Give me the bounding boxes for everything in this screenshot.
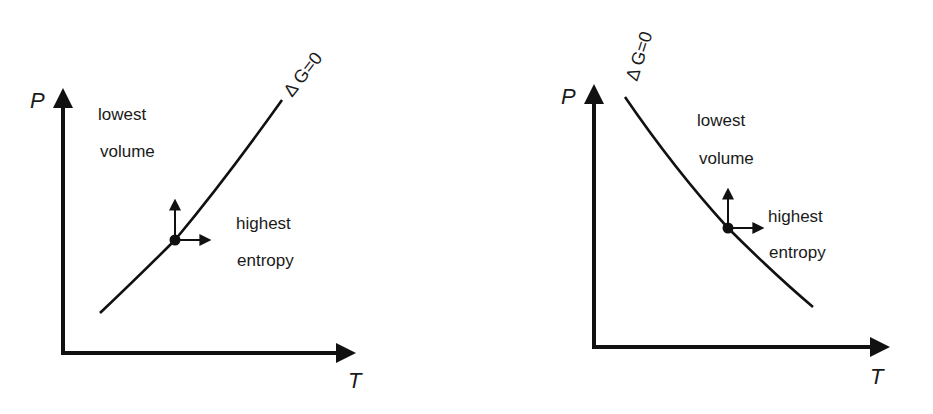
- right-y-axis-label: P: [561, 84, 576, 109]
- right-diagram: P T Δ G=0 lowest volume highest entropy: [561, 29, 886, 389]
- right-region-lower-line2: entropy: [769, 243, 826, 262]
- phase-diagrams: P T Δ G=0 lowest volume highest entropy …: [0, 0, 933, 414]
- left-region-upper-line1: lowest: [98, 105, 146, 124]
- right-x-axis-label: T: [870, 364, 885, 389]
- right-region-lower-line1: highest: [768, 207, 823, 226]
- left-state-point: [170, 235, 181, 246]
- right-curve-label: Δ G=0: [622, 29, 657, 83]
- left-diagram: P T Δ G=0 lowest volume highest entropy: [30, 48, 363, 393]
- right-region-upper-line2: volume: [699, 149, 754, 168]
- left-region-upper-line2: volume: [100, 142, 155, 161]
- left-curve-label: Δ G=0: [279, 48, 326, 100]
- left-x-axis-label: T: [348, 368, 363, 393]
- right-region-upper-line1: lowest: [697, 111, 745, 130]
- left-region-lower-line2: entropy: [237, 251, 294, 270]
- right-state-point: [723, 223, 734, 234]
- left-y-axis-label: P: [30, 88, 45, 113]
- left-phase-boundary-curve: [100, 100, 282, 313]
- left-region-lower-line1: highest: [236, 214, 291, 233]
